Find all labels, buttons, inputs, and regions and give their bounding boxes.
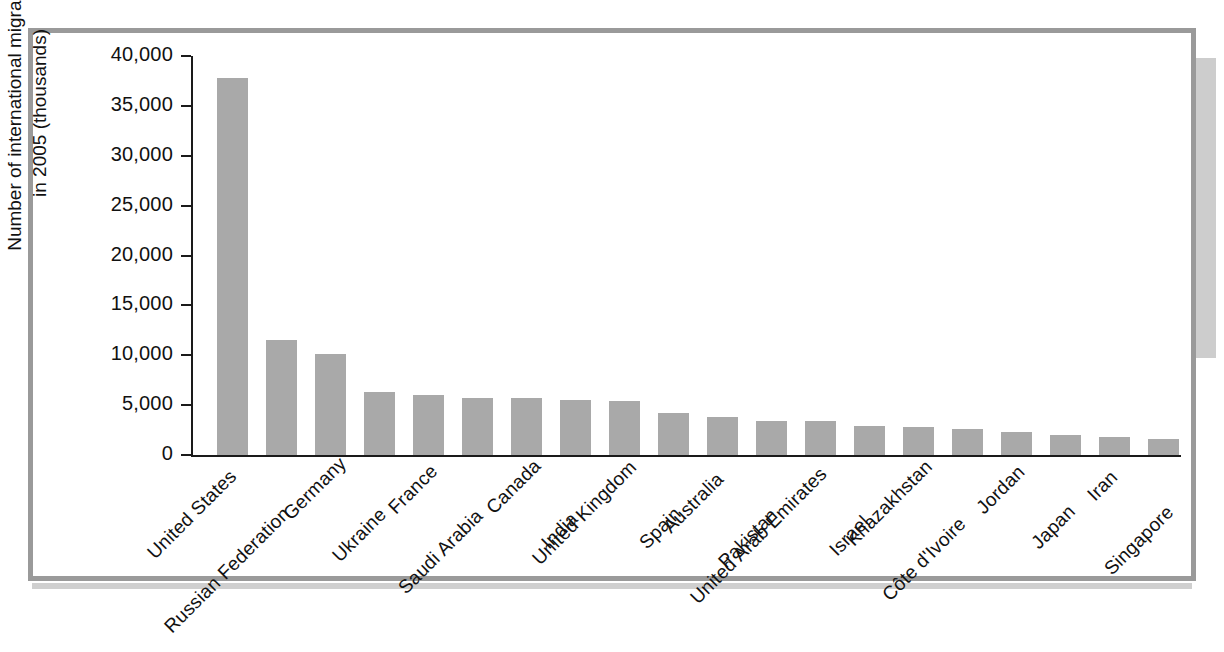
y-axis-tick xyxy=(181,155,191,157)
y-axis-tick-label: 0 xyxy=(60,442,173,465)
y-axis-tick-label: 25,000 xyxy=(60,193,173,216)
bar xyxy=(315,354,346,455)
bar xyxy=(609,401,640,455)
bar xyxy=(1001,432,1032,455)
y-axis-tick xyxy=(181,205,191,207)
y-axis-tick-label: 15,000 xyxy=(60,292,173,315)
x-axis-category-label: Côte d'Ivoire xyxy=(878,513,970,605)
x-axis-category-label: Germany xyxy=(279,453,351,525)
y-axis-title: Number of international migrants in 2005… xyxy=(2,0,52,278)
x-axis-category-labels: United StatesRussian FederationGermanyUk… xyxy=(191,458,1181,578)
x-axis-category-label: Iran xyxy=(1083,466,1122,505)
x-axis-category-label: Khazakhstan xyxy=(842,456,937,551)
x-axis-category-label: Japan xyxy=(1027,501,1080,554)
bar xyxy=(707,417,738,455)
y-axis-tick xyxy=(181,105,191,107)
bar xyxy=(805,421,836,455)
chart-figure: Number of international migrants in 2005… xyxy=(0,0,1224,652)
bar xyxy=(364,392,395,455)
y-axis-tick xyxy=(181,255,191,257)
bar xyxy=(854,426,885,455)
bar xyxy=(217,78,248,455)
bar xyxy=(511,398,542,455)
y-axis-tick xyxy=(181,55,191,57)
x-axis-category-label: France xyxy=(384,460,442,518)
x-axis-category-label: Canada xyxy=(482,455,545,518)
x-axis-category-label: Singapore xyxy=(1100,501,1178,579)
bar xyxy=(952,429,983,455)
y-axis-tick-label: 10,000 xyxy=(60,342,173,365)
y-axis-tick-label: 30,000 xyxy=(60,143,173,166)
bar xyxy=(756,421,787,455)
y-axis-tick xyxy=(181,304,191,306)
bar xyxy=(266,340,297,455)
y-axis-tick xyxy=(181,354,191,356)
bar xyxy=(462,398,493,455)
x-axis-category-label: Ukraine xyxy=(328,504,391,567)
bar xyxy=(413,395,444,455)
bar xyxy=(1050,435,1081,455)
y-axis-title-line1: Number of international migrants xyxy=(2,0,27,278)
y-axis-tick xyxy=(181,404,191,406)
bar xyxy=(560,400,591,455)
bar xyxy=(658,413,689,455)
bar xyxy=(1099,437,1130,455)
x-axis-category-label: Jordan xyxy=(972,461,1029,518)
bar xyxy=(903,427,934,455)
bar-series xyxy=(191,56,1181,455)
y-axis-tick-label: 20,000 xyxy=(60,243,173,266)
y-axis-tick-label: 5,000 xyxy=(60,392,173,415)
y-axis-tick xyxy=(181,454,191,456)
y-axis-tick-label: 40,000 xyxy=(60,43,173,66)
bar xyxy=(1148,439,1179,455)
y-axis-title-line2: in 2005 (thousands) xyxy=(27,0,52,278)
x-axis-category-label: United Kingdom xyxy=(528,456,641,569)
y-axis-tick-label: 35,000 xyxy=(60,93,173,116)
